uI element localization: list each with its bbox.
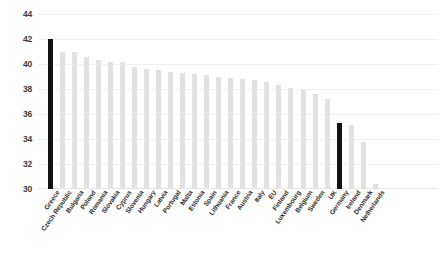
bar — [361, 142, 366, 190]
bar — [264, 82, 269, 190]
x-axis-category-label: Italy — [253, 189, 266, 203]
bar-series — [38, 14, 438, 189]
bar — [144, 69, 149, 189]
bar-chart: 4442403836343230 GreeceCzech RepublicBul… — [0, 0, 445, 259]
bar — [168, 72, 173, 190]
y-axis-tick-label: 42 — [23, 34, 32, 44]
x-axis: GreeceCzech RepublicBulgariaPolandRomani… — [38, 189, 438, 259]
bar — [252, 80, 257, 189]
y-axis-tick-label: 32 — [23, 159, 32, 169]
bar — [240, 79, 245, 189]
bar — [337, 123, 342, 189]
bar — [216, 77, 221, 190]
y-axis: 4442403836343230 — [0, 0, 38, 259]
y-axis-tick-label: 34 — [23, 134, 32, 144]
bar — [228, 78, 233, 189]
bar — [96, 60, 101, 189]
bar — [349, 125, 354, 189]
bar — [132, 67, 137, 190]
bar — [180, 73, 185, 189]
bar — [204, 75, 209, 189]
plot-area — [38, 14, 438, 189]
bar — [301, 90, 306, 189]
bar — [72, 52, 77, 190]
bar — [156, 70, 161, 189]
bar — [120, 62, 125, 190]
y-axis-tick-label: 40 — [23, 59, 32, 69]
bar — [325, 99, 330, 189]
bar — [192, 74, 197, 189]
y-axis-tick-label: 36 — [23, 109, 32, 119]
bar — [108, 62, 113, 190]
bar — [313, 94, 318, 189]
y-axis-tick-label: 30 — [23, 184, 32, 194]
bar — [60, 52, 65, 190]
y-axis-tick-label: 44 — [23, 9, 32, 19]
bar — [276, 85, 281, 189]
bar — [48, 39, 53, 189]
bar — [84, 57, 89, 190]
bar — [288, 88, 293, 189]
y-axis-tick-label: 38 — [23, 84, 32, 94]
